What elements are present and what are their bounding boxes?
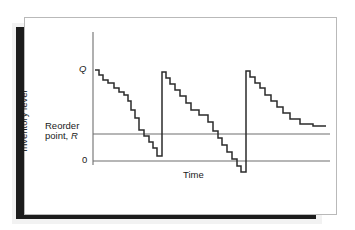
order-quantity-label: Q xyxy=(79,64,86,74)
reorder-point-label-text: point, xyxy=(45,130,71,141)
reorder-point-label-line2: point, R xyxy=(45,131,79,141)
inventory-chart-plot xyxy=(0,0,355,230)
inventory-level-curve xyxy=(95,70,326,172)
zero-level-label: 0 xyxy=(82,155,87,165)
figure-root: Inventory level Time Q Reorder point, R … xyxy=(0,0,355,230)
reorder-point-symbol: R xyxy=(71,130,78,141)
x-axis-title: Time xyxy=(183,170,204,180)
y-axis-title: Inventory level xyxy=(19,73,29,169)
reorder-point-label: Reorder point, R xyxy=(45,121,79,141)
